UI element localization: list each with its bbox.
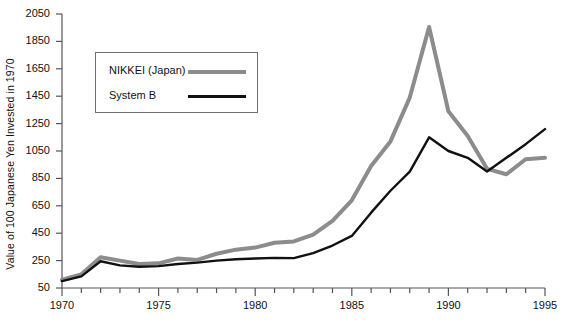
legend-swatch-system-b [188, 95, 246, 98]
legend-label-system-b: System B [109, 89, 156, 101]
y-tick-label: 650 [8, 200, 50, 211]
y-tick-label: 1250 [8, 118, 50, 129]
x-tick-label: 1995 [520, 300, 566, 311]
legend-label-nikkei: NIKKEI (Japan) [109, 64, 185, 76]
series-line-system-b [62, 129, 545, 281]
legend-item-system-b: System B [96, 85, 257, 109]
x-tick-label: 1980 [230, 300, 280, 311]
legend-swatch-nikkei [188, 70, 246, 74]
y-tick-label: 250 [8, 255, 50, 266]
y-tick-label: 2050 [8, 8, 50, 19]
x-tick-label: 1990 [423, 300, 473, 311]
y-tick-label: 1850 [8, 35, 50, 46]
chart-legend: NIKKEI (Japan) System B [95, 52, 258, 113]
y-tick-label: 1450 [8, 90, 50, 101]
y-tick-label: 1050 [8, 145, 50, 156]
line-chart: Value of 100 Japanese Yen Invested in 19… [0, 0, 566, 327]
plot-area [0, 0, 566, 327]
x-tick-label: 1975 [134, 300, 184, 311]
y-tick-label: 1650 [8, 63, 50, 74]
y-tick-label: 850 [8, 172, 50, 183]
legend-item-nikkei: NIKKEI (Japan) [96, 60, 257, 84]
y-tick-label: 50 [8, 282, 50, 293]
y-tick-label: 450 [8, 227, 50, 238]
x-tick-label: 1985 [327, 300, 377, 311]
x-tick-label: 1970 [37, 300, 87, 311]
